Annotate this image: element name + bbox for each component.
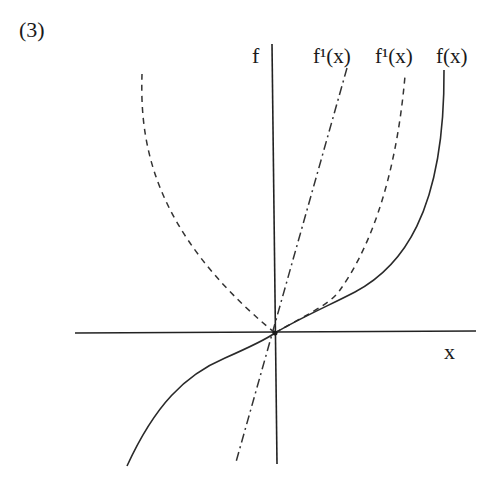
solid-curve-f xyxy=(127,70,444,466)
panel-label: (3) xyxy=(19,17,45,42)
curve-label-dashed: f¹(x) xyxy=(375,44,413,68)
curve-label-solid: f(x) xyxy=(436,44,467,68)
origin-point xyxy=(273,331,278,336)
function-derivative-diagram: (3) f x f¹(x) f¹(x) f(x) xyxy=(0,0,501,477)
y-axis-label: f xyxy=(252,43,260,68)
dashed-curve-right-branch xyxy=(275,76,405,333)
dashed-curve-left-branch xyxy=(142,74,275,333)
dashdot-line-curve xyxy=(236,68,347,462)
curve-label-dashdot: f¹(x) xyxy=(313,44,351,68)
y-axis xyxy=(272,44,277,464)
x-axis-label: x xyxy=(444,339,455,364)
